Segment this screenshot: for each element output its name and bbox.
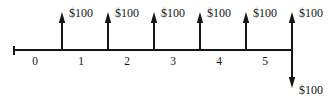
inflow-amount-label: $100 — [115, 7, 139, 19]
inflow-amount-label: $100 — [69, 7, 93, 19]
outflow-arrow-head — [289, 77, 295, 88]
outflow-arrow-group — [289, 50, 295, 88]
cash-flow-timeline-figure: 012345 $100$100$100$100$100$100 $100 — [0, 0, 333, 102]
inflow-amount-label: $100 — [253, 7, 277, 19]
inflow-arrow-head — [151, 12, 157, 23]
period-label: 1 — [78, 56, 84, 68]
inflow-arrow-head — [197, 12, 203, 23]
inflow-arrow-head — [243, 12, 249, 23]
period-label: 3 — [170, 56, 176, 68]
period-label: 2 — [124, 56, 130, 68]
inflow-arrow-head — [59, 12, 65, 23]
outflow-amount-label: $100 — [299, 84, 323, 96]
period-label: 4 — [216, 56, 222, 68]
period-label: 0 — [32, 56, 38, 68]
inflow-amount-label: $100 — [299, 7, 323, 19]
axis-group — [14, 46, 292, 55]
inflow-arrow-head — [289, 12, 295, 23]
period-label: 5 — [262, 56, 268, 68]
inflow-amount-label: $100 — [207, 7, 231, 19]
inflow-arrow-head — [105, 12, 111, 23]
inflow-amount-label: $100 — [161, 7, 185, 19]
